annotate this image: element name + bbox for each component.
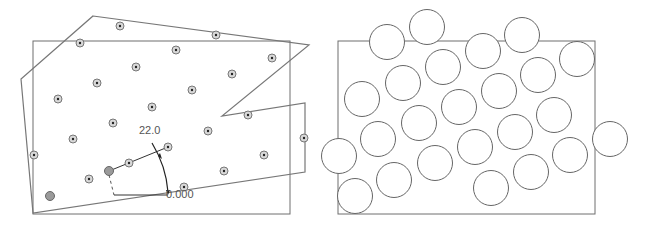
point-marker[interactable] xyxy=(220,167,228,175)
point-marker[interactable] xyxy=(30,151,38,159)
packed-circle xyxy=(426,50,461,85)
offset-label: 0.000 xyxy=(166,188,194,200)
dimension-extension xyxy=(109,175,114,195)
packed-circle xyxy=(410,10,445,45)
packed-circle xyxy=(560,42,595,77)
packed-circle xyxy=(553,138,588,173)
point-marker[interactable] xyxy=(85,175,93,183)
packed-circle xyxy=(514,155,549,190)
packed-circle xyxy=(442,90,477,125)
packed-circle xyxy=(418,146,453,181)
left-panel: 22.00.000 xyxy=(21,16,309,214)
packed-circle xyxy=(338,179,373,214)
packed-circle xyxy=(521,58,556,93)
point-marker[interactable] xyxy=(164,143,172,151)
packed-circle xyxy=(505,18,540,53)
packed-circle xyxy=(474,171,509,206)
bounding-rect xyxy=(33,41,290,214)
packed-circle xyxy=(537,98,572,133)
packed-circle xyxy=(498,115,533,150)
packed-circle xyxy=(370,25,405,60)
packed-circle xyxy=(482,74,517,109)
packed-circle xyxy=(466,34,501,69)
point-marker[interactable] xyxy=(172,46,180,54)
geometry-canvas: 22.00.000 xyxy=(0,0,647,230)
point-marker[interactable] xyxy=(260,151,268,159)
packed-circle xyxy=(386,66,421,101)
point-marker[interactable] xyxy=(204,127,212,135)
highlight-point[interactable] xyxy=(46,192,55,201)
point-marker[interactable] xyxy=(69,135,77,143)
point-marker[interactable] xyxy=(268,54,276,62)
packed-circle xyxy=(361,122,396,157)
point-marker[interactable] xyxy=(300,134,308,142)
packed-circle xyxy=(377,163,412,198)
dimension-ray xyxy=(109,147,168,171)
packed-circle xyxy=(322,139,357,174)
boundary-polygon xyxy=(21,16,309,213)
point-marker[interactable] xyxy=(188,86,196,94)
point-marker[interactable] xyxy=(93,79,101,87)
angle-label: 22.0 xyxy=(139,124,160,136)
point-marker[interactable] xyxy=(76,39,84,47)
point-marker[interactable] xyxy=(54,95,62,103)
point-marker[interactable] xyxy=(116,22,124,30)
highlight-point[interactable] xyxy=(105,167,114,176)
point-marker[interactable] xyxy=(148,103,156,111)
packed-circle xyxy=(593,122,628,157)
packed-circle xyxy=(402,106,437,141)
point-marker[interactable] xyxy=(109,119,117,127)
packed-circle xyxy=(345,82,380,117)
point-marker[interactable] xyxy=(244,111,252,119)
point-marker[interactable] xyxy=(125,159,133,167)
point-marker[interactable] xyxy=(132,63,140,71)
point-marker[interactable] xyxy=(228,70,236,78)
right-panel xyxy=(322,10,628,215)
point-marker[interactable] xyxy=(212,31,220,39)
packed-circle xyxy=(458,130,493,165)
